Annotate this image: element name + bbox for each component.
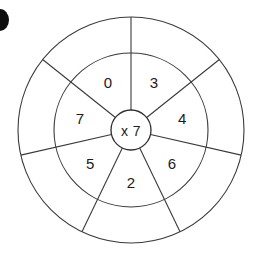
inner-sector-label-6: 0 bbox=[104, 74, 112, 91]
inner-sector-label-1: 4 bbox=[178, 110, 186, 127]
inner-sector-label-0: 3 bbox=[150, 74, 158, 91]
multiplication-wheel-diagram: x 7 3462570 bbox=[0, 0, 261, 260]
inner-sector-label-3: 2 bbox=[127, 174, 135, 191]
hub-label: x 7 bbox=[121, 123, 141, 139]
inner-sector-label-5: 7 bbox=[76, 110, 84, 127]
inner-sector-label-2: 6 bbox=[168, 155, 176, 172]
inner-sector-label-4: 5 bbox=[86, 155, 94, 172]
page-edge-mark-icon bbox=[0, 9, 9, 31]
wheel-canvas: x 7 3462570 bbox=[0, 0, 261, 260]
